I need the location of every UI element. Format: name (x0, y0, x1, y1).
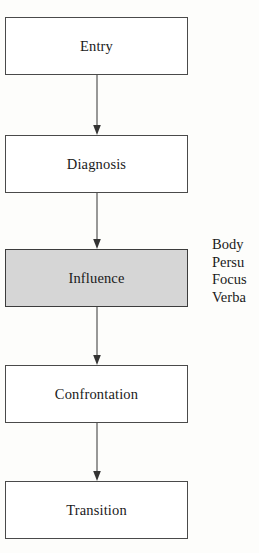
arrow-down-icon (89, 75, 105, 135)
flow-node-transition[interactable]: Transition (5, 481, 188, 539)
side-notes-list: Body Persu Focus Verba (212, 236, 259, 306)
flow-node-diagnosis-label: Diagnosis (67, 157, 126, 172)
flow-node-confrontation-label: Confrontation (55, 387, 138, 402)
side-note-persu: Persu (212, 254, 259, 272)
flow-node-entry-label: Entry (80, 39, 113, 54)
flow-node-influence[interactable]: Influence (5, 249, 188, 307)
side-note-verba: Verba (212, 289, 259, 307)
flow-node-diagnosis[interactable]: Diagnosis (5, 135, 188, 193)
flowchart-diagram: Entry Diagnosis Influence Confrontation (0, 0, 259, 553)
flow-node-influence-label: Influence (68, 271, 124, 286)
arrow-down-icon (89, 193, 105, 249)
arrow-down-icon (89, 307, 105, 365)
arrow-down-icon (89, 423, 105, 481)
connector-entry-to-diagnosis (89, 75, 105, 135)
side-note-body: Body (212, 236, 259, 254)
connector-diagnosis-to-influence (89, 193, 105, 249)
connector-influence-to-confrontation (89, 307, 105, 365)
flow-node-entry[interactable]: Entry (5, 17, 188, 75)
flow-node-confrontation[interactable]: Confrontation (5, 365, 188, 423)
connector-confrontation-to-transition (89, 423, 105, 481)
side-note-focus: Focus (212, 271, 259, 289)
flow-node-transition-label: Transition (66, 503, 127, 518)
